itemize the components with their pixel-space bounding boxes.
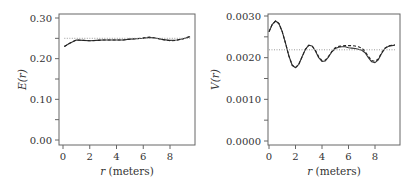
y-tick-label: 0.10 [30, 94, 52, 105]
x-axis-label: r (meters) [100, 165, 154, 177]
y-tick-label: 0.00 [30, 135, 52, 146]
x-tick-label: 4 [319, 151, 325, 162]
x-tick-label: 6 [140, 151, 146, 162]
y-tick-label: 0.20 [30, 53, 52, 64]
series-line-solid [269, 21, 395, 68]
y-axis-label: V(r) [209, 69, 221, 90]
chart-figure: 024680.000.100.200.30r (meters)E(r) 0246… [0, 0, 414, 186]
x-tick-label: 8 [372, 151, 378, 162]
y-tick-label: 0.0030 [226, 11, 261, 22]
x-tick-label: 0 [266, 151, 272, 162]
x-tick-label: 2 [87, 151, 93, 162]
y-tick-label: 0.0010 [226, 94, 261, 105]
y-tick-label: 0.0020 [226, 52, 261, 63]
plot-frame [268, 14, 400, 145]
x-tick-label: 6 [345, 151, 351, 162]
x-axis-label: r (meters) [307, 165, 361, 177]
y-axis-label: E(r) [16, 69, 28, 91]
series-line-dashed [269, 21, 395, 68]
x-tick-label: 0 [60, 151, 66, 162]
y-tick-label: 0.0000 [226, 136, 261, 147]
chart-panel-variance: 024680.00000.00100.00200.0030r (meters)V… [209, 11, 400, 178]
x-tick-label: 2 [292, 151, 298, 162]
y-tick-label: 0.30 [30, 13, 52, 24]
x-tick-label: 8 [167, 151, 173, 162]
x-tick-label: 4 [113, 151, 119, 162]
plot-frame [59, 14, 195, 145]
chart-panel-expectation: 024680.000.100.200.30r (meters)E(r) [16, 13, 195, 178]
